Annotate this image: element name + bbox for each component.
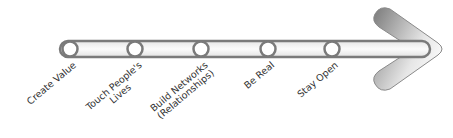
milestone-marker <box>325 42 340 57</box>
milestone-marker <box>128 42 143 57</box>
timeline-diagram: Create ValueTouch People'sLivesBuild Net… <box>0 0 453 138</box>
milestone-marker <box>194 42 209 57</box>
milestone-marker <box>63 42 78 57</box>
timeline-bar <box>60 41 430 57</box>
milestone-marker <box>261 42 276 57</box>
